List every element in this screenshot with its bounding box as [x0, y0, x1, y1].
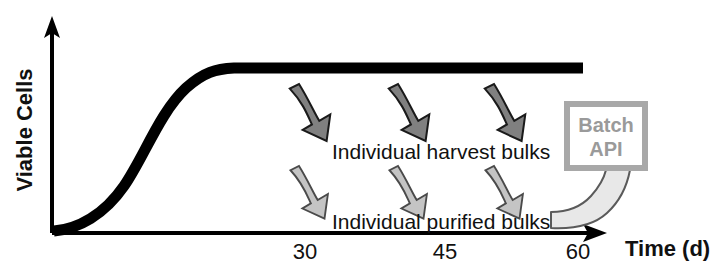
x-tick-label-30: 30	[293, 239, 317, 264]
x-tick-label-60: 60	[566, 239, 590, 264]
diagram-canvas: Individual harvest bulks Individual puri…	[0, 0, 727, 272]
harvest-bulks-label: Individual harvest bulks	[332, 140, 550, 163]
batch-api-line2: API	[589, 138, 622, 160]
harvest-arrow-2	[389, 84, 429, 141]
growth-curve-process-diagram: Individual harvest bulks Individual puri…	[0, 0, 727, 272]
y-axis-title: Viable Cells	[12, 68, 37, 191]
purified-bulks-label: Individual purified bulks	[332, 210, 550, 233]
harvest-arrow-1	[290, 84, 330, 141]
batch-api-line1: Batch	[578, 114, 634, 136]
x-tick-label-45: 45	[433, 239, 457, 264]
harvest-arrow-3	[485, 84, 525, 141]
batch-api-box: Batch API	[567, 104, 645, 168]
x-tick-labels: 30 45 60	[293, 239, 590, 264]
purified-arrow-1	[291, 166, 328, 219]
harvest-arrows-group	[290, 84, 525, 141]
x-axis-title: Time (d)	[625, 236, 710, 261]
